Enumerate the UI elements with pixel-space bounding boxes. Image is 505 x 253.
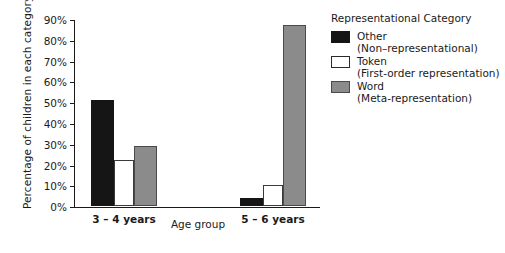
legend-swatch-word-icon xyxy=(331,81,350,93)
y-axis-line xyxy=(74,20,75,208)
y-tick-label: 20% xyxy=(44,160,67,172)
x-axis-title: Age group xyxy=(171,218,225,230)
legend-label-token: Token xyxy=(357,55,500,67)
legend-sublabel-token: (First-order representation) xyxy=(357,67,500,79)
legend-swatch-other-icon xyxy=(331,31,350,43)
y-tick-mark xyxy=(70,145,74,146)
y-tick-mark xyxy=(70,41,74,42)
legend-sublabel-word: (Meta-representation) xyxy=(357,92,472,104)
y-tick-label: 10% xyxy=(44,180,67,192)
bar-group2-word xyxy=(283,25,306,206)
legend-label-other: Other xyxy=(357,30,478,42)
y-tick-mark xyxy=(70,103,74,104)
y-tick-mark xyxy=(70,20,74,21)
y-axis-title: Percentage of children in each category xyxy=(21,9,33,209)
plot-area: 90% 80% 70% 60% 50% 40% 30% 20% xyxy=(74,20,319,207)
bar-group1-token xyxy=(114,160,134,206)
legend-item-word: Word (Meta-representation) xyxy=(331,80,501,104)
y-tick-mark xyxy=(70,186,74,187)
bar-group1-other xyxy=(91,100,114,206)
y-tick-mark xyxy=(70,166,74,167)
legend-text-token: Token (First-order representation) xyxy=(357,55,500,79)
legend-item-token: Token (First-order representation) xyxy=(331,55,501,79)
legend-item-other: Other (Non–representational) xyxy=(331,30,501,54)
y-tick-label: 0% xyxy=(50,201,67,213)
x-group-label-2: 5 – 6 years xyxy=(241,213,304,225)
y-tick-label: 40% xyxy=(44,118,67,130)
legend-swatch-token-icon xyxy=(331,56,350,68)
bar-group2-other xyxy=(240,198,263,206)
legend-text-word: Word (Meta-representation) xyxy=(357,80,472,104)
y-tick-label: 60% xyxy=(44,76,67,88)
y-tick-label: 80% xyxy=(44,35,67,47)
y-tick-mark xyxy=(70,124,74,125)
y-tick-label: 70% xyxy=(44,56,67,68)
y-tick-mark xyxy=(70,82,74,83)
y-tick-label: 30% xyxy=(44,139,67,151)
bar-group2-token xyxy=(263,185,283,206)
legend-sublabel-other: (Non–representational) xyxy=(357,42,478,54)
y-tick-mark xyxy=(70,207,74,208)
legend-label-word: Word xyxy=(357,80,472,92)
legend: Representational Category Other (Non–rep… xyxy=(331,12,501,105)
bar-group1-word xyxy=(134,146,157,206)
y-tick-mark xyxy=(70,62,74,63)
y-tick-label: 90% xyxy=(44,14,67,26)
legend-title: Representational Category xyxy=(331,12,501,24)
x-axis-line xyxy=(74,207,320,208)
legend-text-other: Other (Non–representational) xyxy=(357,30,478,54)
x-group-label-1: 3 – 4 years xyxy=(92,213,155,225)
bar-chart: Percentage of children in each category … xyxy=(0,0,505,253)
y-tick-label: 50% xyxy=(44,97,67,109)
